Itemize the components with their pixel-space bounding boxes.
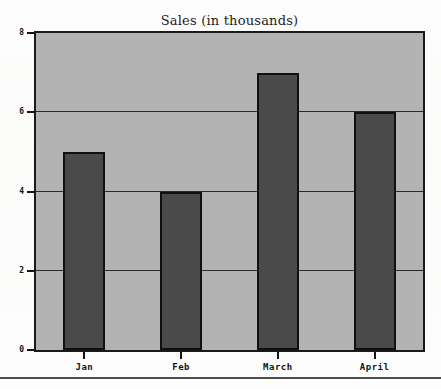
y-tick-4 [27, 191, 35, 193]
x-tick-jan [83, 352, 85, 359]
y-tick-label-4: 4 [0, 188, 24, 196]
x-tick-april [374, 352, 376, 359]
y-tick-label-6: 6 [0, 108, 24, 116]
page-rule-divider [0, 377, 441, 379]
chart-title: Sales (in thousands) [34, 13, 425, 29]
plot-area [34, 31, 425, 352]
y-tick-label-2: 2 [0, 267, 24, 275]
bar-jan [63, 152, 105, 350]
y-tick-2 [27, 270, 35, 272]
y-tick-label-0: 0 [0, 346, 24, 354]
x-tick-march [277, 352, 279, 359]
y-tick-8 [27, 32, 35, 34]
x-tick-label-feb: Feb [141, 362, 221, 372]
bar-march [257, 73, 299, 350]
bar-feb [160, 192, 202, 351]
bar-april [354, 112, 396, 350]
y-tick-label-8: 8 [0, 29, 24, 37]
x-tick-label-april: April [335, 362, 415, 372]
x-tick-label-march: March [238, 362, 318, 372]
bar-chart-figure: Sales (in thousands) 02468 JanFebMarchAp… [0, 0, 441, 389]
y-tick-0 [27, 349, 35, 351]
x-tick-label-jan: Jan [44, 362, 124, 372]
y-tick-6 [27, 111, 35, 113]
x-tick-feb [180, 352, 182, 359]
